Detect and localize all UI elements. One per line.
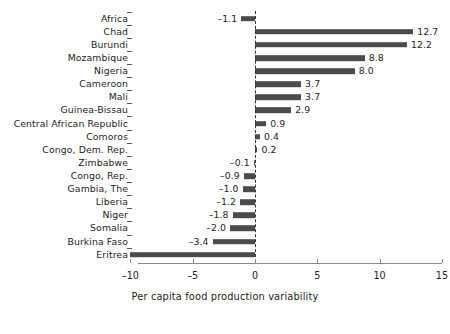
chart-row: Burkina Faso–3.4 bbox=[0, 235, 450, 248]
category-label: Gambia, The bbox=[68, 184, 128, 193]
x-axis-tick-label: 0 bbox=[252, 271, 258, 281]
category-label: Somalia bbox=[90, 224, 128, 233]
category-label: Liberia bbox=[96, 198, 128, 207]
bar bbox=[255, 81, 301, 87]
bar bbox=[240, 199, 255, 205]
category-label: Comoros bbox=[86, 132, 128, 141]
zero-reference-line bbox=[255, 11, 256, 262]
value-label: –3.4 bbox=[189, 237, 209, 246]
chart-row: Mali3.7 bbox=[0, 91, 450, 104]
value-label: 8.0 bbox=[359, 66, 374, 75]
value-label: –1.1 bbox=[217, 14, 237, 23]
x-axis-tick-label: –5 bbox=[187, 271, 198, 281]
category-label: Congo, Dem. Rep. bbox=[42, 145, 128, 154]
bar bbox=[233, 213, 255, 219]
chart-row: Chad12.7 bbox=[0, 25, 450, 38]
bar bbox=[255, 68, 355, 74]
category-label: Mozambique bbox=[68, 53, 128, 62]
bar bbox=[255, 55, 365, 61]
plot-area: Africa–1.1Chad12.7Burundi12.2Mozambique8… bbox=[0, 12, 450, 261]
bar bbox=[243, 186, 255, 192]
bar bbox=[255, 42, 407, 48]
x-axis-tick-label: –10 bbox=[122, 271, 139, 281]
category-label: Burundi bbox=[91, 40, 128, 49]
x-axis-tick bbox=[380, 259, 381, 263]
x-axis-tick bbox=[255, 259, 256, 263]
category-label: Cameroon bbox=[79, 79, 128, 88]
chart-row: Guinea-Bissau2.9 bbox=[0, 104, 450, 117]
chart-row: Cameroon3.7 bbox=[0, 78, 450, 91]
chart-row: Mozambique8.8 bbox=[0, 51, 450, 64]
value-label: –1.8 bbox=[209, 211, 229, 220]
chart-row: Gambia, The–1.0 bbox=[0, 183, 450, 196]
chart-row: Nigeria8.0 bbox=[0, 64, 450, 77]
chart-row: Zimbabwe–0.1 bbox=[0, 156, 450, 169]
chart-row: Niger–1.8 bbox=[0, 209, 450, 222]
bar bbox=[241, 16, 255, 22]
category-label: Central African Republic bbox=[14, 119, 128, 128]
y-axis-tick bbox=[127, 116, 132, 117]
y-axis-tick bbox=[127, 90, 132, 91]
value-label: 12.2 bbox=[411, 40, 432, 49]
value-label: 8.8 bbox=[369, 53, 384, 62]
category-label: Congo, Rep. bbox=[71, 171, 128, 180]
category-label: Eritrea bbox=[96, 250, 128, 259]
bar bbox=[230, 226, 255, 232]
category-label: Nigeria bbox=[94, 66, 128, 75]
chart-row: Liberia–1.2 bbox=[0, 196, 450, 209]
y-axis-tick bbox=[127, 25, 132, 26]
x-axis-tick-label: 5 bbox=[314, 271, 320, 281]
bar bbox=[255, 108, 291, 114]
chart-row: Congo, Rep.–0.9 bbox=[0, 169, 450, 182]
value-label: –0.1 bbox=[230, 158, 250, 167]
bar bbox=[255, 29, 413, 35]
x-axis-tick bbox=[130, 259, 131, 263]
y-axis-tick bbox=[127, 208, 132, 209]
value-label: –0.9 bbox=[220, 171, 240, 180]
value-label: –1.0 bbox=[219, 184, 239, 193]
value-label: 0.4 bbox=[264, 132, 279, 141]
chart-row: Eritrea bbox=[0, 248, 450, 261]
category-label: Burkina Faso bbox=[67, 237, 128, 246]
y-axis-tick bbox=[127, 169, 132, 170]
value-label: 3.7 bbox=[305, 93, 320, 102]
category-label: Guinea-Bissau bbox=[60, 106, 128, 115]
category-label: Chad bbox=[104, 27, 128, 36]
x-axis-title: Per capita food production variability bbox=[0, 291, 450, 302]
bar bbox=[244, 173, 255, 179]
x-axis-tick bbox=[442, 259, 443, 263]
value-label: –2.0 bbox=[206, 224, 226, 233]
x-axis-line bbox=[138, 263, 442, 264]
y-axis-tick bbox=[127, 182, 132, 183]
category-label: Africa bbox=[101, 14, 128, 23]
value-label: 2.9 bbox=[295, 106, 310, 115]
value-label: –1.2 bbox=[216, 198, 236, 207]
value-label: 3.7 bbox=[305, 79, 320, 88]
y-axis-tick bbox=[127, 51, 132, 52]
category-label: Zimbabwe bbox=[78, 158, 128, 167]
chart-title bbox=[0, 0, 450, 6]
bar bbox=[130, 252, 255, 258]
x-axis-tick-label: 10 bbox=[373, 271, 385, 281]
x-axis-tick-label: 15 bbox=[436, 271, 448, 281]
bar bbox=[213, 239, 255, 245]
value-label: 0.2 bbox=[261, 145, 276, 154]
chart-row: Somalia–2.0 bbox=[0, 222, 450, 235]
bar-chart: Africa–1.1Chad12.7Burundi12.2Mozambique8… bbox=[0, 0, 450, 334]
bar bbox=[255, 94, 301, 100]
value-label: 12.7 bbox=[417, 27, 438, 36]
category-label: Mali bbox=[109, 93, 128, 102]
chart-row: Central African Republic0.9 bbox=[0, 117, 450, 130]
category-label: Niger bbox=[103, 211, 128, 220]
bar bbox=[255, 121, 266, 127]
chart-row: Africa–1.1 bbox=[0, 12, 450, 25]
chart-row: Congo, Dem. Rep.0.2 bbox=[0, 143, 450, 156]
x-axis-tick bbox=[193, 259, 194, 263]
value-label: 0.9 bbox=[270, 119, 285, 128]
chart-row: Comoros0.4 bbox=[0, 130, 450, 143]
chart-row: Burundi12.2 bbox=[0, 38, 450, 51]
x-axis-tick bbox=[317, 259, 318, 263]
